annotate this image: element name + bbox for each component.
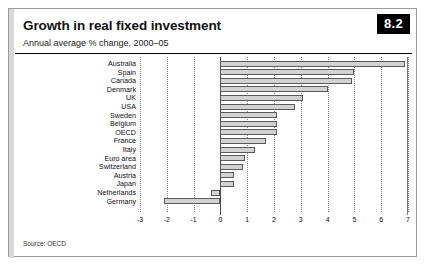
bar <box>220 121 276 127</box>
category-label: USA <box>121 103 136 111</box>
bar <box>220 104 295 110</box>
category-label: Belgium <box>110 120 136 128</box>
bar <box>220 69 354 75</box>
category-axis-labels: AustraliaSpainCanadaDenmarkUKUSASwedenBe… <box>23 57 140 212</box>
category-label: Italy <box>123 146 136 154</box>
bar <box>164 198 220 204</box>
x-tick-label: -2 <box>164 216 170 223</box>
category-label: Australia <box>108 60 136 68</box>
bars-canvas: -3-2-101234567 <box>140 57 408 232</box>
bar <box>220 138 266 144</box>
bar <box>220 147 255 153</box>
plot-area: AustraliaSpainCanadaDenmarkUKUSASwedenBe… <box>23 57 408 232</box>
x-tick-label: 5 <box>352 216 356 223</box>
gridline-7 <box>408 57 409 212</box>
bar <box>220 164 243 170</box>
plot-right-edge <box>407 57 408 215</box>
bar <box>220 181 233 187</box>
category-label: Canada <box>111 77 136 85</box>
chart-subtitle: Annual average % change, 2000–05 <box>23 38 169 48</box>
x-tick-label: -1 <box>190 216 196 223</box>
bar <box>220 86 327 92</box>
x-tick-label: 0 <box>218 216 222 223</box>
bar <box>220 155 244 161</box>
category-label: Germany <box>106 198 136 206</box>
figure-number-badge: 8.2 <box>377 14 410 34</box>
bar <box>220 112 276 118</box>
gridline-6 <box>381 57 382 212</box>
x-tick-label: 1 <box>245 216 249 223</box>
x-tick-label: 4 <box>326 216 330 223</box>
x-tick-label: 3 <box>299 216 303 223</box>
category-label: Netherlands <box>97 189 136 197</box>
bar <box>220 129 276 135</box>
bar <box>220 78 351 84</box>
gridline--1 <box>194 57 195 212</box>
x-tick-label: 7 <box>406 216 410 223</box>
bar <box>220 61 405 67</box>
x-tick-label: -3 <box>137 216 143 223</box>
decorative-spine <box>9 9 14 258</box>
bar <box>220 172 233 178</box>
source-note: Source: OECD <box>23 240 66 247</box>
gridline--3 <box>140 57 141 212</box>
x-tick-label: 6 <box>379 216 383 223</box>
bar <box>220 95 303 101</box>
title-divider <box>15 53 412 54</box>
gridline-5 <box>354 57 355 212</box>
bar <box>211 190 220 196</box>
figure-panel: 8.2 Growth in real fixed investment Annu… <box>8 8 417 257</box>
gridline--2 <box>167 57 168 212</box>
category-label: Switzerland <box>99 163 136 171</box>
x-tick-label: 2 <box>272 216 276 223</box>
chart-title: Growth in real fixed investment <box>23 18 221 33</box>
